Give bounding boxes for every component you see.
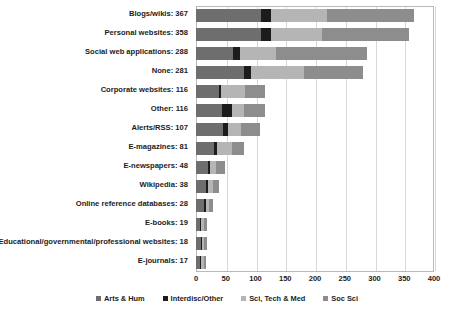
category-label: Other: 116: [0, 104, 188, 113]
gridline: [435, 7, 436, 271]
legend-item: Sci, Tech & Med: [241, 294, 305, 304]
bar-segment-sci-tech-med: [221, 85, 245, 98]
category-label: E-journals: 17: [0, 256, 188, 265]
legend-item: Soc Sci: [323, 294, 358, 304]
stacked-bar: [196, 237, 207, 250]
bar-segment-sci-tech-med: [251, 66, 305, 79]
bar-row: [196, 139, 434, 158]
bar-segment-soc-sci: [204, 256, 206, 269]
bar-segment-soc-sci: [213, 180, 219, 193]
category-label: Personal websites: 358: [0, 28, 188, 37]
bar-segment-soc-sci: [322, 28, 409, 41]
bar-rows: [196, 6, 434, 272]
stacked-bar: [196, 85, 265, 98]
bar-segment-arts-hum: [196, 85, 219, 98]
x-tick-label: 300: [360, 274, 390, 283]
legend-item: Arts & Hum: [96, 294, 145, 304]
bar-row: [196, 101, 434, 120]
stacked-bar: [196, 66, 363, 79]
bar-segment-soc-sci: [204, 237, 206, 250]
legend-label: Arts & Hum: [104, 294, 145, 304]
legend-swatch-icon: [323, 296, 328, 301]
stacked-bar: [196, 123, 260, 136]
bar-row: [196, 253, 434, 272]
bar-segment-interdisc-other: [222, 104, 232, 117]
stacked-bar: [196, 104, 265, 117]
bar-segment-sci-tech-med: [240, 47, 276, 60]
bar-segment-soc-sci: [232, 142, 244, 155]
x-tick-label: 200: [300, 274, 330, 283]
bar-segment-soc-sci: [209, 199, 213, 212]
category-axis-labels: Blogs/wikis: 367Personal websites: 358So…: [0, 6, 192, 272]
category-label: Educational/governmental/professional we…: [0, 237, 188, 246]
x-tick-label: 250: [330, 274, 360, 283]
stacked-bar: [196, 9, 414, 22]
chart-legend: Arts & HumInterdisc/OtherSci, Tech & Med…: [0, 294, 454, 304]
x-tick-label: 350: [389, 274, 419, 283]
bar-row: [196, 82, 434, 101]
category-label: Corporate websites: 116: [0, 85, 188, 94]
bar-row: [196, 6, 434, 25]
category-label: Social web applications: 288: [0, 47, 188, 56]
bar-segment-sci-tech-med: [232, 104, 244, 117]
bar-segment-interdisc-other: [233, 47, 240, 60]
bar-row: [196, 196, 434, 215]
stacked-bar: [196, 199, 213, 212]
bar-segment-interdisc-other: [244, 66, 251, 79]
bar-segment-interdisc-other: [261, 9, 271, 22]
category-label: Online reference databases: 28: [0, 199, 188, 208]
legend-swatch-icon: [163, 296, 168, 301]
bar-segment-arts-hum: [196, 9, 261, 22]
bar-segment-arts-hum: [196, 142, 214, 155]
bar-segment-sci-tech-med: [217, 142, 232, 155]
bar-segment-arts-hum: [196, 104, 222, 117]
bar-segment-arts-hum: [196, 47, 233, 60]
x-tick-label: 0: [181, 274, 211, 283]
bar-segment-sci-tech-med: [271, 28, 322, 41]
stacked-bar: [196, 161, 225, 174]
legend-item: Interdisc/Other: [163, 294, 224, 304]
bar-segment-arts-hum: [196, 66, 244, 79]
bar-segment-soc-sci: [304, 66, 363, 79]
bar-row: [196, 44, 434, 63]
bar-segment-arts-hum: [196, 199, 204, 212]
bar-segment-soc-sci: [241, 123, 260, 136]
bar-segment-soc-sci: [245, 85, 265, 98]
bar-segment-soc-sci: [327, 9, 414, 22]
bar-row: [196, 234, 434, 253]
stacked-bar: [196, 142, 244, 155]
bar-row: [196, 25, 434, 44]
legend-label: Interdisc/Other: [171, 294, 224, 304]
category-label: Alerts/RSS: 107: [0, 123, 188, 132]
bar-segment-soc-sci: [204, 218, 207, 231]
bar-segment-arts-hum: [196, 28, 261, 41]
bar-row: [196, 63, 434, 82]
bar-segment-arts-hum: [196, 180, 206, 193]
bar-segment-arts-hum: [196, 123, 223, 136]
x-axis-ticks: 050100150200250300350400: [196, 274, 434, 288]
category-label: Wikipedia: 38: [0, 180, 188, 189]
bar-row: [196, 158, 434, 177]
bar-row: [196, 120, 434, 139]
bar-segment-soc-sci: [216, 161, 224, 174]
bar-row: [196, 177, 434, 196]
stacked-bar: [196, 28, 409, 41]
bar-segment-soc-sci: [244, 104, 265, 117]
bar-segment-interdisc-other: [261, 28, 271, 41]
legend-label: Sci, Tech & Med: [249, 294, 305, 304]
category-label: E-newspapers: 48: [0, 161, 188, 170]
category-label: E-books: 19: [0, 218, 188, 227]
x-tick-label: 400: [419, 274, 449, 283]
stacked-bar-chart: Blogs/wikis: 367Personal websites: 358So…: [0, 0, 454, 319]
category-label: Blogs/wikis: 367: [0, 9, 188, 18]
stacked-bar: [196, 256, 206, 269]
x-tick-label: 100: [241, 274, 271, 283]
bar-segment-soc-sci: [276, 47, 368, 60]
legend-label: Soc Sci: [331, 294, 358, 304]
bar-row: [196, 215, 434, 234]
stacked-bar: [196, 218, 207, 231]
category-label: E-magazines: 81: [0, 142, 188, 151]
legend-swatch-icon: [241, 296, 246, 301]
bar-segment-sci-tech-med: [228, 123, 240, 136]
x-tick-label: 150: [270, 274, 300, 283]
